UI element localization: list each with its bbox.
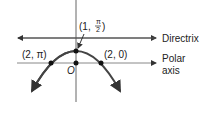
vertex-pointer-arrow xyxy=(78,34,84,48)
point-2-pi xyxy=(49,61,54,66)
point-2-0-label: (2, 0) xyxy=(104,49,127,60)
point-2-pi-label: (2, π) xyxy=(22,49,47,60)
svg-text:): ) xyxy=(102,21,105,32)
polar-axis-label-line2: axis xyxy=(162,65,180,76)
origin-label: O xyxy=(67,65,75,76)
polar-axis-label: Polar xyxy=(162,53,186,64)
vertex-theta-numerator: π xyxy=(96,18,101,25)
point-2-0 xyxy=(99,61,104,66)
vertex-theta-denominator: 2 xyxy=(96,26,100,33)
parabola-diagram: (1, π 2 ) (2, π) (2, 0) O Directrix Pola… xyxy=(0,0,209,113)
vertex-label: (1, xyxy=(79,21,91,32)
directrix-label: Directrix xyxy=(162,33,199,44)
vertex-point xyxy=(74,49,79,54)
